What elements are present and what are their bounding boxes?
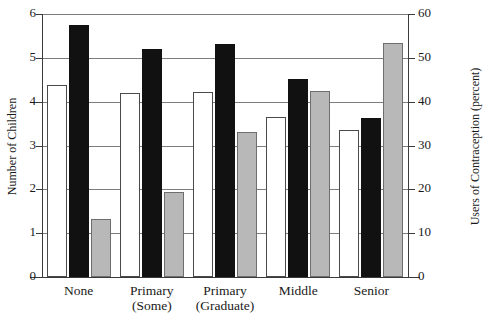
y-tick-label-right: 10 [418,224,452,240]
y-tick-right [409,277,415,278]
bar-black-bar-2 [215,44,235,277]
bar-gray-bar-4 [383,43,403,278]
y-tick-label-left: 1 [6,224,36,240]
y-tick-left [36,102,42,103]
y-tick-label-left: 6 [6,5,36,21]
y-tick-left [36,189,42,190]
y-tick-label-left: 0 [6,268,36,284]
bar-gray-bar-0 [91,219,111,277]
x-axis-line [30,277,420,278]
y-axis-title-right: Users of Contraception (percent) [468,67,483,227]
y-tick-right [409,189,415,190]
bar-white-bar-0 [47,85,67,277]
y-tick-left [36,14,42,15]
bar-white-bar-1 [120,93,140,277]
y-tick-right [409,102,415,103]
y-tick-label-right: 60 [418,5,452,21]
bar-gray-bar-2 [237,132,257,277]
y-tick-label-right: 30 [418,137,452,153]
bar-black-bar-4 [361,118,381,277]
bar-white-bar-3 [266,117,286,277]
y-tick-right [409,58,415,59]
y-tick-left [36,146,42,147]
plot-area [42,14,408,277]
left-axis-line [42,14,43,278]
bar-gray-bar-1 [164,192,184,277]
x-category-label-4: Senior [323,283,420,298]
right-tick-labels: 0102030405060 [418,0,452,317]
bar-black-bar-1 [142,49,162,277]
y-tick-label-right: 0 [418,268,452,284]
y-axis-title-left: Number of Children [5,77,20,217]
y-tick-label-right: 50 [418,49,452,65]
cropped-title-fragment [0,0,479,7]
y-tick-label-left: 5 [6,49,36,65]
y-tick-right [409,146,415,147]
y-tick-left [36,58,42,59]
gridline [42,14,408,15]
y-tick-right [409,14,415,15]
bar-white-bar-4 [339,130,359,277]
y-tick-left [36,277,42,278]
y-tick-right [409,233,415,234]
x-category-line: Senior [323,283,420,298]
bar-white-bar-2 [193,92,213,277]
y-tick-label-right: 40 [418,93,452,109]
x-category-line: (Graduate) [176,298,273,313]
y-tick-label-right: 20 [418,180,452,196]
bar-gray-bar-3 [310,91,330,277]
y-tick-left [36,233,42,234]
bar-black-bar-3 [288,79,308,277]
bar-black-bar-0 [69,25,89,277]
